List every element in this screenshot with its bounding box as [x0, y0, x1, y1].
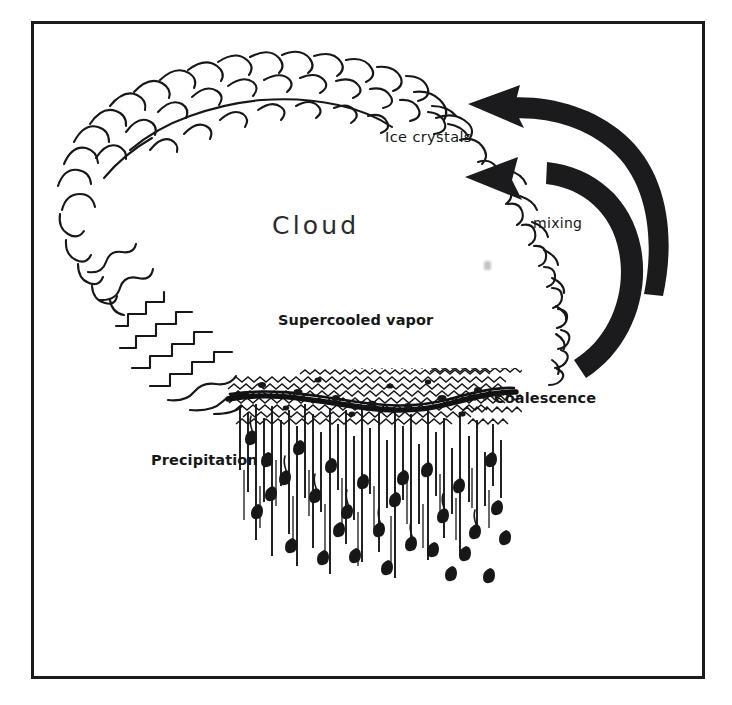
mixing-label: mixing: [533, 215, 582, 231]
cloud-diagram-illustration: [0, 0, 732, 705]
ice-crystals-label: Ice crystals: [385, 129, 472, 145]
arrow-lower: [465, 157, 643, 378]
supercooled-vapor-label: Supercooled vapor: [278, 312, 433, 328]
entrainment-arrows: [465, 85, 669, 378]
figure-canvas: Cloud Ice crystals mixing Supercooled va…: [0, 0, 732, 705]
precipitation-streaks: [240, 404, 511, 583]
raindrop-glyphs: [245, 430, 511, 583]
cloud-label: Cloud: [272, 211, 359, 240]
coalescence-label: Coalescence: [494, 390, 596, 406]
scan-artifact-smudge: [484, 261, 491, 270]
precipitation-label: Precipitation: [151, 452, 258, 468]
